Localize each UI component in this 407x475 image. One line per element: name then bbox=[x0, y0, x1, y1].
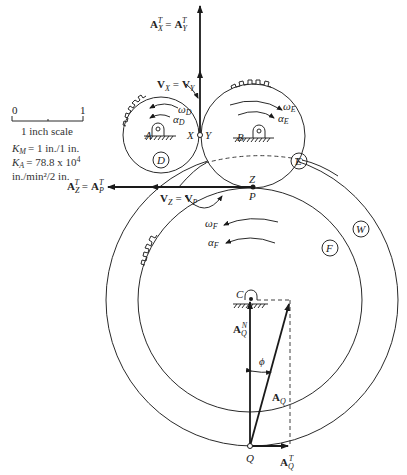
phi-angle-arc bbox=[251, 371, 271, 372]
label-point-b: B bbox=[237, 131, 244, 143]
scale-bar bbox=[12, 116, 83, 121]
label-aq: AQ bbox=[272, 391, 286, 406]
label-point-c: C bbox=[236, 288, 244, 300]
label-vz-vp: VZ=VP bbox=[160, 192, 198, 207]
gear-train-acceleration-diagram: 0 1 1 inch scale KM= 1 in./1 in. KA= 78.… bbox=[0, 0, 407, 475]
label-gear-e: E bbox=[294, 155, 302, 167]
ka-units: in./min²/2 in. bbox=[12, 170, 70, 182]
point-xy bbox=[198, 133, 203, 138]
gear-f-teeth bbox=[141, 235, 157, 265]
point-zp bbox=[251, 185, 256, 190]
km-constant: KM= 1 in./1 in. bbox=[11, 142, 79, 156]
label-gear-f: F bbox=[325, 242, 333, 254]
label-point-q: Q bbox=[246, 452, 254, 464]
label-phi: ϕ bbox=[259, 355, 265, 367]
scale-tick-0: 0 bbox=[12, 104, 18, 116]
ka-constant: KA= 78.8 x 104 bbox=[11, 155, 80, 170]
label-point-z: Z bbox=[249, 173, 256, 185]
vector-aq-arrow bbox=[250, 304, 289, 446]
label-gear-d: D bbox=[156, 154, 165, 166]
label-omega-d: ωD bbox=[178, 103, 192, 117]
vector-vx-arrowhead bbox=[197, 70, 203, 78]
label-omega-f: ωF bbox=[205, 217, 218, 231]
label-omega-e: ωE bbox=[283, 100, 296, 114]
label-gear-w: W bbox=[356, 223, 366, 235]
label-ax-ay: AXT=AYT bbox=[150, 16, 188, 33]
label-aq-n: AQN bbox=[233, 321, 248, 338]
scale-caption: 1 inch scale bbox=[21, 125, 73, 137]
gear-w-arc-right bbox=[302, 160, 338, 176]
vector-vz-arrowhead bbox=[150, 184, 158, 190]
alpha-f-arrow bbox=[226, 238, 275, 243]
label-alpha-f: αF bbox=[208, 236, 219, 250]
label-point-x: X bbox=[186, 129, 195, 141]
label-vx-vy: VX=VY bbox=[157, 78, 196, 93]
scale-tick-1: 1 bbox=[80, 104, 86, 116]
point-q bbox=[248, 444, 253, 449]
label-az-ap: AZT=APT bbox=[67, 178, 104, 195]
omega-f-arrow bbox=[224, 219, 278, 225]
label-aq-t: AQT bbox=[280, 454, 294, 471]
label-point-p: P bbox=[248, 190, 256, 202]
label-point-a: A bbox=[144, 129, 152, 141]
